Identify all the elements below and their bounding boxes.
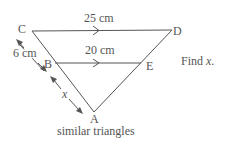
length-label-be: 20 cm bbox=[85, 44, 115, 56]
point-label-b: B bbox=[44, 58, 52, 70]
length-label-cd: 25 cm bbox=[84, 12, 114, 24]
point-label-e: E bbox=[146, 60, 153, 72]
length-label-ba-x: x bbox=[62, 88, 67, 100]
point-label-c: C bbox=[18, 23, 26, 35]
arrow-shaft-ba-bottom bbox=[69, 99, 79, 110]
instruction-text: Find x. bbox=[181, 55, 214, 67]
length-label-cb: 6 cm bbox=[13, 47, 37, 59]
segment-cd bbox=[32, 30, 172, 31]
similar-triangles-diagram bbox=[0, 0, 232, 142]
diagram-caption: similar triangles bbox=[57, 125, 135, 137]
arrow-shaft-ba-top bbox=[53, 79, 61, 89]
point-label-d: D bbox=[173, 25, 182, 37]
